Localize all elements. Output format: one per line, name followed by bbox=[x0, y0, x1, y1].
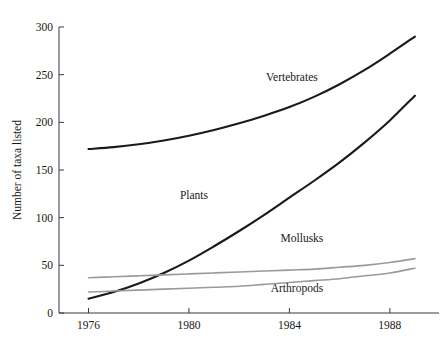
y-axis-title: Number of taxa listed bbox=[11, 120, 23, 220]
x-tick-label: 1976 bbox=[77, 319, 100, 331]
series-label-mollusks: Mollusks bbox=[281, 232, 324, 244]
series-line-vertebrates bbox=[89, 37, 415, 150]
y-tick-label: 50 bbox=[42, 259, 54, 271]
y-tick-label: 300 bbox=[36, 21, 54, 33]
series-label-plants: Plants bbox=[180, 189, 209, 201]
series-label-arthropods: Arthropods bbox=[271, 282, 324, 295]
series-lines bbox=[89, 37, 415, 299]
chart-container: 050100150200250300 1976198019841988 Vert… bbox=[0, 0, 448, 355]
y-axis-title-text: Number of taxa listed bbox=[11, 120, 23, 220]
series-annotations: VertebratesPlantsMollusksArthropods bbox=[180, 71, 324, 295]
x-tick-label: 1984 bbox=[278, 319, 301, 331]
x-axis: 1976198019841988 bbox=[59, 308, 439, 331]
series-label-vertebrates: Vertebrates bbox=[266, 71, 318, 83]
series-line-mollusks bbox=[89, 259, 415, 278]
line-chart: 050100150200250300 1976198019841988 Vert… bbox=[0, 0, 448, 355]
x-tick-label: 1980 bbox=[177, 319, 200, 331]
y-tick-label: 200 bbox=[36, 116, 54, 128]
y-tick-label: 100 bbox=[36, 212, 54, 224]
y-tick-label: 150 bbox=[36, 164, 54, 176]
y-tick-label: 0 bbox=[47, 307, 53, 319]
series-line-plants bbox=[89, 96, 415, 299]
y-axis: 050100150200250300 bbox=[36, 21, 64, 319]
x-tick-label: 1988 bbox=[378, 319, 401, 331]
y-tick-label: 250 bbox=[36, 69, 54, 81]
